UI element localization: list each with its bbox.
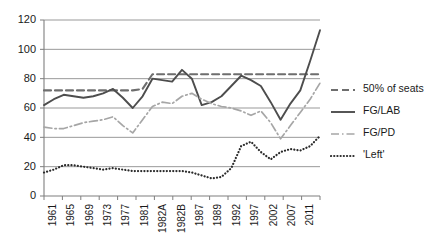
x-axis-tick-label: 1982B bbox=[176, 204, 187, 233]
x-axis-tick-label: 2011 bbox=[304, 204, 315, 226]
legend-swatch-icon bbox=[330, 126, 356, 138]
x-axis-tick-label: 1989 bbox=[212, 204, 223, 227]
x-axis-tick-label: 1965 bbox=[65, 204, 76, 227]
series-line-50-of-seats bbox=[44, 74, 320, 90]
x-axis-tick-label: 1969 bbox=[84, 204, 95, 227]
x-axis-tick-label: 1997 bbox=[249, 204, 260, 227]
legend-swatch-icon bbox=[330, 82, 356, 94]
legend-item-label: 'Left' bbox=[363, 148, 385, 160]
x-axis-tick-label: 1992 bbox=[231, 204, 242, 227]
y-axis-tick-label: 120 bbox=[18, 13, 36, 25]
y-axis-tick-label: 20 bbox=[24, 160, 36, 172]
x-axis-tick-label: 1982A bbox=[157, 204, 168, 233]
legend-item-label: 50% of seats bbox=[363, 82, 424, 94]
legend-swatch-icon bbox=[330, 148, 356, 160]
x-axis-tick-label: 1987 bbox=[194, 204, 205, 227]
y-axis-tick-label: 60 bbox=[24, 101, 36, 113]
legend-swatch-icon bbox=[330, 104, 356, 116]
series-line--left- bbox=[44, 136, 320, 179]
x-axis-tick-label: 1981 bbox=[139, 204, 150, 227]
x-axis-tick-label: 1977 bbox=[120, 204, 131, 227]
y-axis-tick-label: 0 bbox=[30, 189, 36, 201]
legend-item-label: FG/LAB bbox=[363, 104, 400, 116]
y-axis-tick-label: 100 bbox=[18, 43, 36, 55]
legend-item[interactable]: FG/LAB bbox=[330, 99, 425, 121]
legend-item-label: FG/PD bbox=[363, 126, 395, 138]
y-axis-tick-label: 80 bbox=[24, 72, 36, 84]
series-line-fg-pd bbox=[44, 83, 320, 139]
x-axis-tick-label: 2007 bbox=[286, 204, 297, 227]
x-axis-tick-label: 2002 bbox=[268, 204, 279, 227]
y-axis-tick-label: 40 bbox=[24, 131, 36, 143]
x-axis-tick-label: 1961 bbox=[47, 204, 58, 227]
legend-item[interactable]: 50% of seats bbox=[330, 77, 425, 99]
x-axis-tick-label: 1973 bbox=[102, 204, 113, 227]
chart-legend: 50% of seatsFG/LABFG/PD'Left' bbox=[330, 77, 425, 165]
legend-item[interactable]: FG/PD bbox=[330, 121, 425, 143]
legend-item[interactable]: 'Left' bbox=[330, 143, 425, 165]
chart-container: 0204060801001201961196519691973197719811… bbox=[0, 0, 425, 246]
